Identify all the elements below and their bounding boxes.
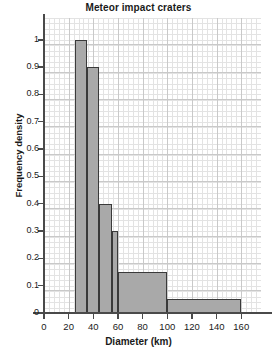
y-tick-label: 0.1 — [5, 281, 39, 290]
y-tick-label: 0.9 — [5, 62, 39, 71]
x-axis-title: Diameter (km) — [0, 336, 277, 347]
x-tick — [167, 313, 168, 319]
x-tick — [68, 313, 69, 319]
histogram-bar — [118, 272, 167, 313]
x-tick — [117, 313, 118, 319]
histogram-bar — [167, 299, 241, 313]
x-tick — [191, 313, 192, 319]
y-tick-label: 0 — [5, 308, 39, 317]
x-tick — [43, 313, 44, 319]
chart-title: Meteor impact craters — [0, 2, 277, 13]
y-axis-title: Frequency density — [13, 86, 24, 226]
x-tick — [93, 313, 94, 319]
histogram-bar — [75, 40, 87, 313]
histogram-bar — [87, 67, 99, 313]
y-tick-label: 0.2 — [5, 253, 39, 262]
histogram-bar — [99, 204, 111, 313]
y-tick-label: 0.3 — [5, 226, 39, 235]
y-tick-label: 1 — [5, 35, 39, 44]
histogram-chart: Meteor impact craters 00.10.20.30.40.50.… — [0, 0, 277, 350]
plot-area — [44, 18, 261, 313]
x-tick — [142, 313, 143, 319]
y-axis-line — [43, 14, 45, 314]
x-tick — [216, 313, 217, 319]
x-tick — [241, 313, 242, 319]
x-tick-label: 160 — [226, 322, 256, 332]
